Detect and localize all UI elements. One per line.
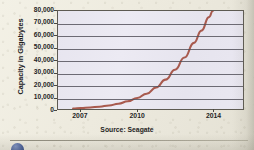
gridline xyxy=(58,86,243,87)
y-axis-tick-label: 20,000 xyxy=(24,82,54,89)
y-axis-tick-label: 60,000 xyxy=(24,32,54,39)
y-axis-tick-mark xyxy=(54,10,57,11)
capacity-line-series xyxy=(58,11,243,109)
y-axis-tick-mark xyxy=(54,98,57,99)
x-axis-tick-mark xyxy=(213,109,214,112)
x-axis-tick-mark xyxy=(80,109,81,112)
gridline xyxy=(58,74,243,75)
x-axis-tick-label: 2007 xyxy=(72,112,87,119)
y-axis-tick-label: 10,000 xyxy=(24,94,54,101)
y-axis-tick-label: 30,000 xyxy=(24,69,54,76)
footer-bullet-icon xyxy=(11,143,24,150)
y-axis-tick-label: 70,000 xyxy=(24,19,54,26)
y-axis-tick-mark xyxy=(54,60,57,61)
x-axis-tick-labels: 200720102014 xyxy=(57,112,244,124)
gridline xyxy=(58,61,243,62)
y-axis-tick-mark xyxy=(54,73,57,74)
x-axis-tick-label: 2014 xyxy=(206,112,221,119)
y-axis-tick-label: 50,000 xyxy=(24,44,54,51)
plot-area xyxy=(57,10,244,110)
y-axis-tick-labels: 010,00020,00030,00040,00050,00060,00070,… xyxy=(24,0,54,120)
y-axis-tick-label: 80,000 xyxy=(24,7,54,14)
y-axis-tick-mark xyxy=(54,110,57,111)
gridline xyxy=(58,99,243,100)
x-axis-tick-label: 2010 xyxy=(130,112,145,119)
y-axis-tick-label: 0 xyxy=(24,107,54,114)
x-axis-tick-mark xyxy=(137,109,138,112)
gridline xyxy=(58,36,243,37)
chart-figure: Capacity in Gigabytes 010,00020,00030,00… xyxy=(0,0,254,150)
source-caption: Source: Seagate xyxy=(0,126,254,133)
y-axis-tick-mark xyxy=(54,23,57,24)
capacity-curve-path xyxy=(73,11,213,109)
y-axis-tick-mark xyxy=(54,35,57,36)
gridline xyxy=(58,49,243,50)
y-axis-tick-mark xyxy=(54,85,57,86)
y-axis-tick-label: 40,000 xyxy=(24,57,54,64)
y-axis-tick-mark xyxy=(54,48,57,49)
footer-divider xyxy=(10,140,248,141)
gridline xyxy=(58,24,243,25)
